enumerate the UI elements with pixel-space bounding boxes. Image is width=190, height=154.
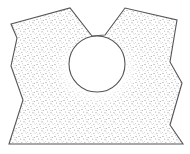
circular-opening — [69, 36, 125, 92]
rock-mass-diagram — [0, 0, 190, 154]
